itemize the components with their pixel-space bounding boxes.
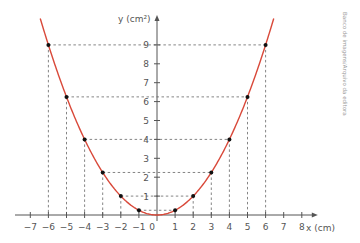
data-point bbox=[65, 95, 69, 99]
y-tick-label: 9 bbox=[143, 40, 149, 50]
x-axis-arrow-icon bbox=[312, 213, 318, 218]
data-point bbox=[137, 208, 141, 212]
y-tick-label: 7 bbox=[143, 78, 149, 88]
data-point bbox=[101, 170, 105, 174]
x-tick-label: 2 bbox=[190, 222, 196, 232]
data-point bbox=[83, 137, 87, 141]
x-tick-label: 6 bbox=[263, 222, 269, 232]
image-credit: Banco de imagens/Arquivo da editora bbox=[341, 12, 348, 116]
x-tick-label: −4 bbox=[78, 222, 92, 232]
data-point bbox=[246, 95, 250, 99]
x-tick-label: −3 bbox=[96, 222, 109, 232]
x-tick-label: 1 bbox=[172, 222, 178, 232]
axes bbox=[15, 15, 318, 221]
x-tick-label: 4 bbox=[227, 222, 233, 232]
y-axis-arrow-icon bbox=[155, 15, 160, 21]
x-tick-label: −5 bbox=[60, 222, 73, 232]
x-tick-label: 5 bbox=[245, 222, 251, 232]
parabola-chart: −7−6−5−4−3−2−1012345678123456789 x (cm) … bbox=[0, 0, 360, 243]
x-tick-label: −1 bbox=[132, 222, 145, 232]
y-tick-label: 3 bbox=[143, 154, 149, 164]
x-tick-label: 8 bbox=[299, 222, 305, 232]
data-point bbox=[119, 194, 123, 198]
data-point bbox=[209, 170, 213, 174]
y-tick-label: 1 bbox=[143, 192, 149, 202]
y-tick-label: 4 bbox=[143, 135, 149, 145]
x-tick-label: −6 bbox=[42, 222, 56, 232]
y-axis-title: y (cm²) bbox=[118, 14, 151, 24]
x-axis-title: x (cm) bbox=[306, 223, 335, 233]
y-tick-label: 5 bbox=[143, 116, 149, 126]
data-point bbox=[264, 43, 268, 47]
y-tick-label: 6 bbox=[143, 97, 149, 107]
x-tick-label: 7 bbox=[281, 222, 287, 232]
data-point bbox=[191, 194, 195, 198]
y-tick-label: 8 bbox=[143, 59, 149, 69]
x-tick-label: 3 bbox=[208, 222, 214, 232]
y-tick-label: 2 bbox=[143, 173, 149, 183]
x-tick-label: −7 bbox=[24, 222, 37, 232]
tick-labels: −7−6−5−4−3−2−1012345678123456789 bbox=[24, 40, 305, 232]
data-point bbox=[227, 137, 231, 141]
data-point bbox=[173, 208, 177, 212]
x-tick-label: −2 bbox=[114, 222, 127, 232]
x-tick-label: 0 bbox=[149, 222, 155, 232]
data-point bbox=[46, 43, 50, 47]
